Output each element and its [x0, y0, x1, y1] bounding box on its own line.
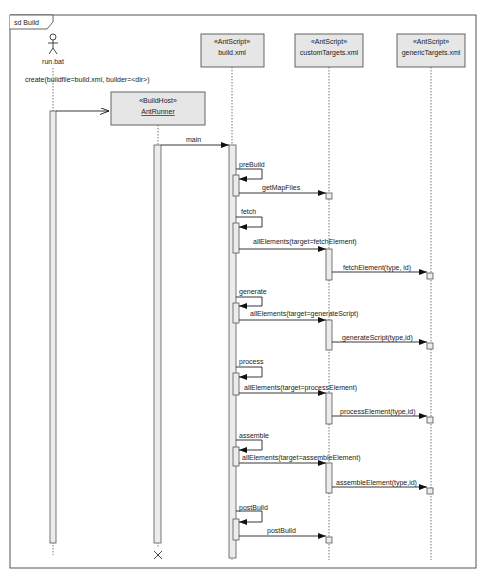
activation-assembleelement — [427, 488, 433, 494]
lifeline-name: genericTargets.xml — [402, 49, 461, 57]
stereotype: «AntScript» — [214, 38, 250, 46]
msg-create: create(buildfile=build.xml, builder=<dir… — [25, 76, 150, 84]
messages — [56, 111, 427, 536]
msg-allelements-generate: allElements(target=generateScript) — [250, 310, 358, 318]
activation-processelement — [427, 417, 433, 423]
activation-custom-process — [326, 393, 332, 424]
lifeline-name: build.xml — [218, 49, 246, 56]
msg-fetch: fetch — [241, 208, 256, 215]
activation-prebuild — [233, 175, 239, 196]
msg-allelements-process: allElements(target=processElement) — [244, 384, 357, 392]
activation-generate — [233, 303, 239, 323]
activation-run-bat — [50, 111, 56, 543]
msg-allelements-fetch: allElements(target=fetchElement) — [253, 238, 357, 246]
activation-antrunner — [154, 145, 161, 543]
stick-figure-icon — [48, 34, 58, 54]
activation-postbuild-custom — [326, 537, 332, 543]
activation-build-main — [229, 145, 236, 558]
activation-custom-assemble — [326, 463, 332, 493]
actor-run-bat: run.bat — [42, 34, 64, 65]
msg-process: process — [239, 358, 264, 366]
msg-processelement: processElement(type,id) — [340, 408, 415, 416]
actor-name: run.bat — [42, 58, 64, 65]
msg-getmapfiles: getMapFiles — [262, 184, 301, 192]
activation-assemble — [233, 447, 239, 466]
msg-main: main — [186, 136, 201, 143]
frame-title: sd Build — [14, 19, 39, 26]
msg-generatescript: generateScript(type,id) — [342, 334, 413, 342]
activation-postbuild — [233, 519, 239, 540]
lifelines — [53, 67, 431, 560]
stereotype: «AntScript» — [413, 38, 449, 46]
lifeline-header-antrunner[interactable]: «BuildHost» AntRunner — [111, 92, 205, 125]
lifeline-name: customTargets.xml — [300, 49, 359, 57]
stereotype: «AntScript» — [311, 38, 347, 46]
activation-generatescript — [427, 343, 433, 349]
activation-process — [233, 373, 239, 395]
sequence-diagram: sd Build run.bat «BuildHost» AntRunner «… — [0, 0, 486, 577]
lifeline-header-customtargets-xml[interactable]: «AntScript» customTargets.xml — [295, 34, 363, 67]
activation-fetch — [233, 223, 239, 253]
lifeline-header-build-xml[interactable]: «AntScript» build.xml — [201, 34, 264, 67]
msg-postbuild: postBuild — [239, 504, 268, 512]
lifeline-name: AntRunner — [141, 108, 175, 115]
msg-fetchelement: fetchElement(type, id) — [343, 264, 411, 272]
msg-allelements-assemble: allElements(target=assembleElement) — [242, 454, 360, 462]
activation-custom-fetch — [326, 249, 332, 280]
msg-assemble: assemble — [239, 432, 269, 439]
msg-postbuild-call: postBuild — [267, 527, 296, 535]
activation-fetchelement — [427, 273, 433, 279]
msg-prebuild: preBuild — [239, 161, 265, 169]
msg-generate: generate — [239, 288, 267, 296]
destroy-x-icon — [154, 551, 162, 559]
msg-assembleelement: assembleElement(type,id) — [336, 479, 417, 487]
activation-getmapfiles — [326, 193, 332, 199]
activation-custom-generate — [326, 320, 332, 350]
stereotype: «BuildHost» — [139, 97, 177, 104]
lifeline-header-generictargets-xml[interactable]: «AntScript» genericTargets.xml — [397, 34, 465, 67]
